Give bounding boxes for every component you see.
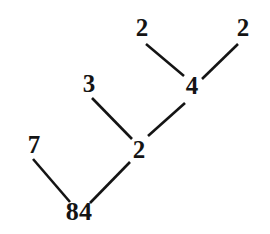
tree-edge xyxy=(148,103,185,136)
tree-edge xyxy=(90,162,130,203)
tree-node-84: 84 xyxy=(66,199,92,225)
tree-edge xyxy=(202,44,238,79)
tree-edge xyxy=(146,44,184,76)
tree-node-7: 7 xyxy=(28,132,41,157)
tree-node-2: 2 xyxy=(133,137,146,162)
tree-node-3: 3 xyxy=(83,71,96,96)
tree-edge xyxy=(92,98,132,139)
tree-node-2: 2 xyxy=(237,15,250,40)
tree-node-2: 2 xyxy=(136,15,149,40)
factor-tree-diagram: 22432784 xyxy=(0,0,270,234)
tree-edge xyxy=(33,159,70,202)
tree-node-4: 4 xyxy=(186,73,199,98)
